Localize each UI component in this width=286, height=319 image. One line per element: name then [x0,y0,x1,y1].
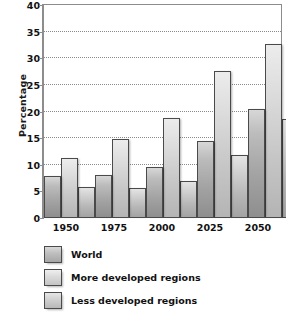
bar [248,109,265,218]
bar [146,167,163,218]
bar-group [95,5,146,218]
bar [197,141,214,218]
bar [265,44,282,218]
y-axis-tick-label: 35 [27,26,40,37]
x-axis-labels: 19501975200020252050 [42,222,282,238]
bar-groups [44,5,281,218]
bar-group [146,5,197,218]
legend-label: More developed regions [71,272,201,283]
x-axis-tick-label: 1975 [90,222,138,238]
y-axis-tick-label: 20 [27,106,40,117]
bar [129,188,146,218]
plot-inner: 0510152025303540 [44,5,281,218]
legend-item: More developed regions [44,268,201,286]
y-axis-tick-label: 30 [27,53,40,64]
x-axis-tick-label: 2000 [138,222,186,238]
bar [163,118,180,218]
plot-area: 0510152025303540 [42,4,282,218]
bar [95,175,112,218]
bar [112,139,129,218]
legend-item: World [44,245,201,263]
legend-swatch [44,292,62,309]
bar-group [248,5,286,218]
legend-swatch [44,246,62,263]
legend-item: Less developed regions [44,291,201,309]
y-axis-tick-label: 10 [27,159,40,170]
bar [180,181,197,218]
y-axis-tick-label: 25 [27,79,40,90]
bar-group [44,5,95,218]
y-axis-tick-label: 15 [27,133,40,144]
bar [282,119,286,218]
bar-group [197,5,248,218]
x-axis-tick-label: 2025 [186,222,234,238]
legend-swatch [44,269,62,286]
chart-legend: WorldMore developed regionsLess develope… [44,245,201,309]
legend-label: World [71,249,102,260]
bar [231,155,248,218]
bar [61,158,78,218]
chart-figure: Percentage 0510152025303540 195019752000… [0,0,286,319]
x-axis-tick-label: 1950 [42,222,90,238]
x-axis-tick-label: 2050 [234,222,282,238]
legend-label: Less developed regions [71,295,197,306]
y-axis-tick-label: 40 [27,0,40,11]
y-axis-tick-mark [39,218,44,219]
bar [214,71,231,218]
bar [78,187,95,218]
bar [44,176,61,218]
